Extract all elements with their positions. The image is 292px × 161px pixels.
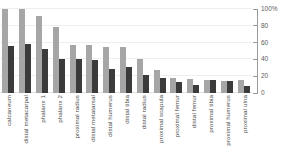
bar-series-dark xyxy=(176,82,182,93)
x-axis-label: proximal scapula xyxy=(156,95,163,143)
bar-group xyxy=(17,9,34,93)
x-axis-label: proximal tibia xyxy=(206,95,213,133)
x-label-cell: proximal femur xyxy=(168,94,185,161)
bar-series-dark xyxy=(8,46,14,93)
x-axis-label: calcaneum xyxy=(5,95,12,126)
plot-area xyxy=(0,9,252,93)
bar-series-dark xyxy=(210,80,216,93)
x-label-cell: distal humerus xyxy=(101,94,118,161)
bar-series-dark xyxy=(160,78,166,93)
bar-series-dark xyxy=(42,49,48,93)
y-tick-label: 40 xyxy=(261,54,268,63)
y-tick-mark xyxy=(253,25,258,26)
x-axis-label: phalanx 1 xyxy=(38,95,45,123)
x-label-cell: distal radius xyxy=(134,94,151,161)
y-tick-mark xyxy=(253,76,258,77)
bar-series-dark xyxy=(126,67,132,93)
bar-group xyxy=(50,9,67,93)
x-label-cell: proximal ulna xyxy=(235,94,252,161)
y-axis: 020406080100% xyxy=(253,9,292,93)
x-axis-label: distal humerus xyxy=(106,95,113,137)
bar-group xyxy=(34,9,51,93)
bar-series-dark xyxy=(109,69,115,93)
bar-group xyxy=(84,9,101,93)
x-label-cell: proximal radius xyxy=(67,94,84,161)
bar-group xyxy=(202,9,219,93)
bar-group xyxy=(134,9,151,93)
x-label-cell: distal metacarpal xyxy=(17,94,34,161)
y-tick-mark xyxy=(253,93,258,94)
x-label-cell: phalanx 2 xyxy=(50,94,67,161)
x-axis-label: proximal humerus xyxy=(223,95,230,146)
y-tick-label: 20 xyxy=(261,71,268,80)
y-tick-label: 60 xyxy=(261,38,268,47)
x-axis-label: proximal ulna xyxy=(240,95,247,133)
bar-group xyxy=(0,9,17,93)
y-axis-line xyxy=(257,9,258,93)
bar-group xyxy=(185,9,202,93)
x-label-cell: phalanx 1 xyxy=(34,94,51,161)
x-axis-label: phalanx 2 xyxy=(55,95,62,123)
bar-group xyxy=(235,9,252,93)
bar-series-dark xyxy=(143,75,149,93)
bar-series-container xyxy=(0,9,252,93)
bar-series-dark xyxy=(59,59,65,93)
bar-series-dark xyxy=(25,44,31,93)
x-label-cell: proximal humerus xyxy=(218,94,235,161)
y-tick-label: 80 xyxy=(261,21,268,30)
bar-group xyxy=(168,9,185,93)
bar-series-dark xyxy=(227,81,233,93)
x-axis-label: proximal radius xyxy=(72,95,79,138)
x-label-cell: distal tibia xyxy=(118,94,135,161)
bar-series-dark xyxy=(92,60,98,93)
y-tick-mark xyxy=(253,9,258,10)
bar-group xyxy=(67,9,84,93)
x-axis-label: proximal femur xyxy=(173,95,180,137)
x-label-cell: proximal tibia xyxy=(202,94,219,161)
x-axis-label: distal metacarpal xyxy=(22,95,29,143)
x-label-cell: distal femur xyxy=(185,94,202,161)
x-label-cell: calcaneum xyxy=(0,94,17,161)
bar-group xyxy=(118,9,135,93)
x-axis-category-labels: calcaneumdistal metacarpalphalanx 1phala… xyxy=(0,94,252,161)
y-tick-label: 100% xyxy=(261,4,278,13)
bar-group xyxy=(218,9,235,93)
y-tick-mark xyxy=(253,59,258,60)
bar-group xyxy=(101,9,118,93)
x-axis-label: distal tibia xyxy=(122,95,129,124)
y-tick-mark xyxy=(253,42,258,43)
bar-series-dark xyxy=(76,59,82,93)
bar-series-dark xyxy=(244,86,250,93)
x-axis-label: distal metatarsal xyxy=(89,95,96,142)
bar-chart: 020406080100% calcaneumdistal metacarpal… xyxy=(0,0,292,161)
x-label-cell: proximal scapula xyxy=(151,94,168,161)
bar-group xyxy=(151,9,168,93)
y-tick-label: 0 xyxy=(261,88,265,97)
x-axis-label: distal radius xyxy=(139,95,146,129)
x-label-cell: distal metatarsal xyxy=(84,94,101,161)
x-axis-label: distal femur xyxy=(190,95,197,128)
bar-series-dark xyxy=(193,85,199,93)
